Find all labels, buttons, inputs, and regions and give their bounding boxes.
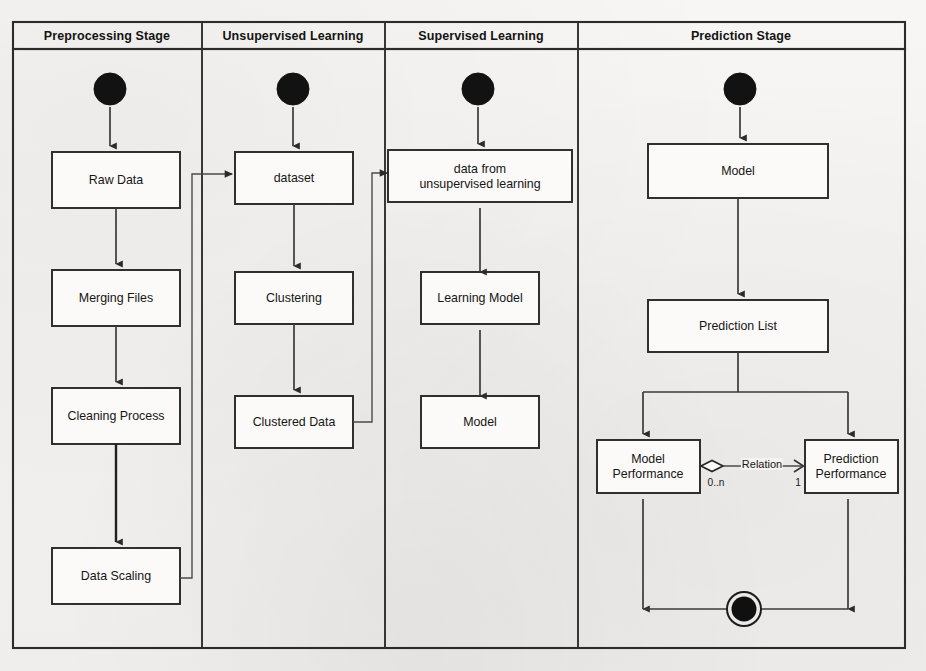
node-label-prediction-performance: Prediction Performance — [816, 452, 887, 481]
lane-prediction-graphics: Prediction Performance --> — [597, 73, 898, 626]
lane-title-supervised: Supervised Learning — [418, 29, 544, 43]
final-node-core — [732, 597, 757, 622]
lane-supervised-graphics — [388, 73, 572, 448]
node-label-model-performance: Model Performance — [613, 452, 684, 481]
node-label-merging-files: Merging Files — [79, 291, 153, 306]
node-label-model-supervised: Model — [463, 415, 497, 430]
node-label-learning-model: Learning Model — [437, 291, 522, 306]
initial-node-unsupervised-shape — [277, 73, 309, 105]
node-label-prediction-list: Prediction List — [699, 319, 777, 334]
node-label-raw-data: Raw Data — [89, 173, 143, 188]
flow-data-scaling-to-dataset — [180, 174, 232, 578]
initial-node-prediction-shape — [724, 73, 756, 105]
association-source-multiplicity: 0..n — [708, 477, 725, 488]
initial-node-preprocessing-shape — [94, 73, 126, 105]
aggregation-diamond-icon — [701, 461, 723, 472]
lane-title-preprocessing: Preprocessing Stage — [44, 29, 170, 43]
lane-title-unsupervised: Unsupervised Learning — [222, 29, 363, 43]
association-label-relation: Relation — [741, 458, 783, 470]
node-label-clustered-data: Clustered Data — [253, 415, 336, 430]
initial-node-supervised-shape — [462, 73, 494, 105]
lane-unsupervised-graphics — [235, 73, 353, 448]
node-label-cleaning-process: Cleaning Process — [67, 409, 164, 424]
lane-title-prediction: Prediction Stage — [691, 29, 791, 43]
node-label-dataset: dataset — [274, 171, 315, 186]
node-label-model-prediction: Model — [721, 164, 755, 179]
node-label-data-from-unsupervised: data from unsupervised learning — [419, 162, 540, 191]
lane-preprocessing-graphics — [52, 73, 180, 604]
node-label-clustering: Clustering — [266, 291, 322, 306]
flow-clustered-data-to-supervised-input — [353, 173, 387, 422]
diagram-canvas: Prediction Performance --> Preprocessing… — [0, 0, 926, 671]
node-label-data-scaling: Data Scaling — [81, 569, 151, 584]
association-target-multiplicity: 1 — [795, 477, 801, 488]
